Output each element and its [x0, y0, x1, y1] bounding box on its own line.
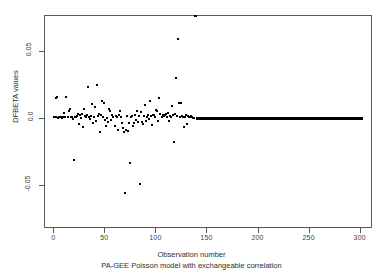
plot-area: [44, 15, 372, 228]
data-point: [140, 111, 142, 113]
data-point: [107, 121, 109, 123]
y-axis-tick: [39, 185, 44, 186]
data-point: [82, 126, 84, 128]
y-axis-tick-label-text: 0.0: [28, 112, 35, 122]
data-point: [173, 141, 175, 143]
data-point: [166, 116, 168, 118]
data-point: [65, 96, 67, 98]
data-point: [138, 115, 140, 117]
data-point: [151, 124, 153, 126]
data-point: [109, 110, 111, 112]
data-point: [145, 120, 147, 122]
data-point: [134, 114, 136, 116]
x-axis-tick: [258, 228, 259, 233]
data-point: [69, 108, 71, 110]
data-point: [93, 116, 95, 118]
y-axis-title: DFBETA values: [11, 57, 20, 137]
x-axis-tick-label: 0: [51, 234, 55, 241]
data-point: [186, 123, 188, 125]
data-point: [127, 130, 129, 132]
data-point: [124, 192, 126, 194]
data-point: [92, 122, 94, 124]
y-axis-tick: [39, 51, 44, 52]
data-point: [97, 115, 99, 117]
x-axis-tick-label: 150: [200, 234, 212, 241]
data-point: [183, 126, 185, 128]
x-axis-tick: [155, 228, 156, 233]
x-axis-tick-label: 100: [149, 234, 161, 241]
data-point: [180, 102, 182, 104]
data-point: [73, 159, 75, 161]
data-point: [91, 103, 93, 105]
data-point: [81, 113, 83, 115]
data-point: [102, 116, 104, 118]
data-point: [142, 123, 144, 125]
data-point: [149, 100, 151, 102]
data-point: [63, 112, 65, 114]
x-axis-tick-label: 300: [354, 234, 366, 241]
data-point: [94, 106, 96, 108]
data-point: [126, 115, 128, 117]
x-axis-tick-label: 50: [100, 234, 108, 241]
y-axis-tick-label-text: -0.05: [25, 176, 32, 192]
x-axis-tick: [104, 228, 105, 233]
data-point: [76, 115, 78, 117]
data-point: [133, 122, 135, 124]
y-axis-tick: [39, 118, 44, 119]
chart-subtitle: PA-GEE Poisson model with exchangeable c…: [0, 261, 383, 270]
data-point: [193, 117, 195, 119]
x-axis-tick-label: 200: [251, 234, 263, 241]
data-point: [114, 125, 116, 127]
data-point: [80, 117, 82, 119]
data-point: [132, 125, 134, 127]
data-point: [117, 129, 119, 131]
y-axis-tick-label-text: 0.05: [26, 43, 33, 57]
data-point: [177, 38, 179, 40]
data-point: [148, 118, 150, 120]
x-axis-tick: [206, 228, 207, 233]
y-axis-tick-label: 0.05: [0, 46, 36, 53]
data-point: [143, 115, 145, 117]
data-point: [119, 110, 121, 112]
data-point: [122, 127, 124, 129]
data-point: [104, 119, 106, 121]
data-point: [87, 86, 89, 88]
data-point: [95, 120, 97, 122]
data-point: [156, 110, 158, 112]
data-point: [170, 116, 172, 118]
data-point: [110, 119, 112, 121]
data-point: [144, 104, 146, 106]
data-point: [120, 116, 122, 118]
data-point: [85, 116, 87, 118]
data-point: [72, 118, 74, 120]
x-axis-title: Observation number: [0, 250, 383, 259]
data-point: [146, 116, 148, 118]
data-point: [168, 120, 170, 122]
data-point: [175, 77, 177, 79]
data-point: [139, 183, 141, 185]
data-point: [154, 116, 156, 118]
x-axis-tick: [360, 228, 361, 233]
data-point: [89, 118, 91, 120]
data-point: [129, 162, 131, 164]
data-point: [158, 97, 160, 99]
data-point: [106, 117, 108, 119]
data-point: [103, 102, 105, 104]
data-point: [121, 122, 123, 124]
data-point: [136, 110, 138, 112]
y-axis-tick-label: -0.05: [0, 180, 36, 187]
x-axis-tick: [53, 228, 54, 233]
data-point: [83, 108, 85, 110]
data-point: [67, 116, 69, 118]
dfbeta-scatter-figure: 050100150200250300 0.050.0-0.05 DFBETA v…: [0, 0, 383, 277]
data-point: [96, 84, 98, 86]
zero-reference-line: [196, 117, 363, 120]
data-point: [195, 15, 197, 17]
data-point: [171, 105, 173, 107]
data-point: [137, 121, 139, 123]
data-point: [131, 115, 133, 117]
data-point: [78, 123, 80, 125]
data-point: [99, 131, 101, 133]
data-point: [105, 125, 107, 127]
data-point: [68, 110, 70, 112]
